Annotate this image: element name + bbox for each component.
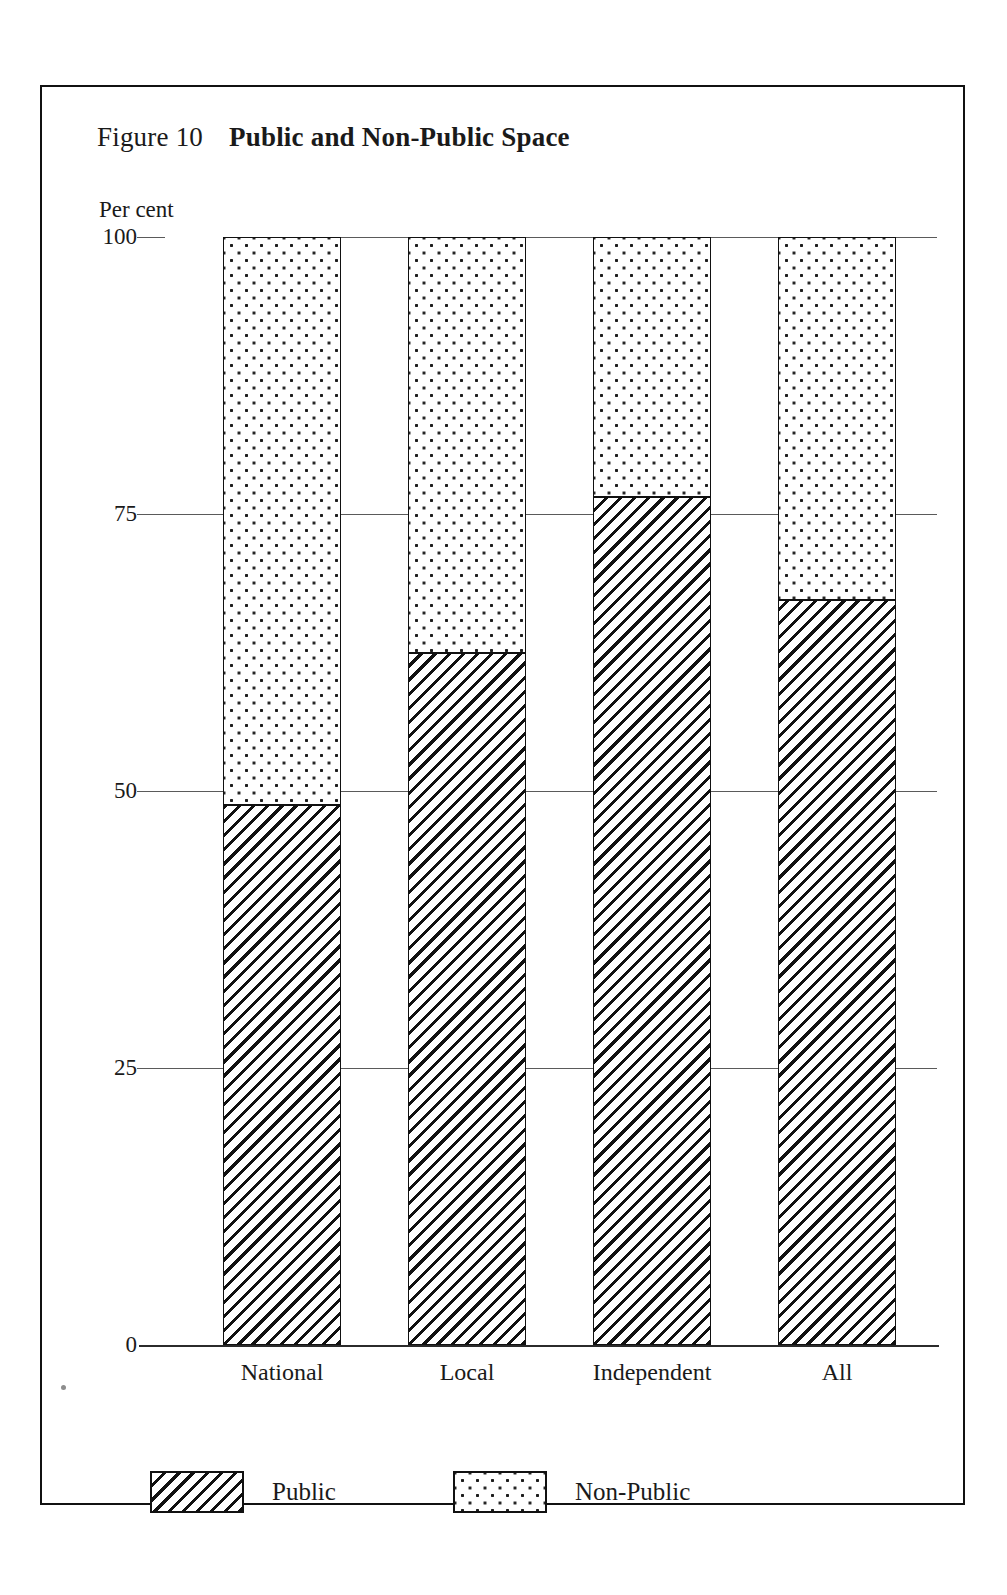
y-axis-tick-label-25: 25: [77, 1055, 137, 1081]
y-axis-tick-label-100: 100: [77, 224, 137, 250]
legend-swatch-public-icon: [150, 1471, 244, 1513]
x-axis-baseline: [139, 1345, 939, 1347]
bar-group-all: [778, 237, 896, 1345]
gridline-100-tick: [137, 237, 165, 238]
bar-segment-public-local: [408, 653, 526, 1346]
legend-label-public: Public: [272, 1478, 336, 1506]
legend-item-public[interactable]: Public: [150, 1471, 336, 1513]
chart-plot-area: 0255075100 NationalLocalIndependentAll: [42, 87, 963, 1503]
legend-swatch-non-public-icon: [453, 1471, 547, 1513]
bar-segment-non-public-independent: [593, 237, 711, 497]
bar-segment-public-all: [778, 600, 896, 1345]
bar-segment-non-public-all: [778, 237, 896, 600]
bar-segment-non-public-national: [223, 237, 341, 805]
bar-segment-non-public-local: [408, 237, 526, 653]
legend-label-non-public: Non-Public: [575, 1478, 690, 1506]
gridline-100-segment-3: [896, 237, 937, 238]
bar-group-local: [408, 237, 526, 1345]
bar-group-national: [223, 237, 341, 1345]
y-axis-tick-label-50: 50: [77, 778, 137, 804]
scan-artifact-speck: [61, 1385, 66, 1390]
y-axis-tick-label-75: 75: [77, 501, 137, 527]
y-axis-tick-label-0: 0: [77, 1332, 137, 1358]
bar-segment-public-independent: [593, 497, 711, 1345]
legend-item-non-public[interactable]: Non-Public: [453, 1471, 690, 1513]
gridline-100-segment-0: [341, 237, 409, 238]
chart-legend: PublicNon-Public: [42, 1417, 963, 1487]
gridline-100-segment-2: [711, 237, 779, 238]
bar-segment-public-national: [223, 805, 341, 1345]
bar-group-independent: [593, 237, 711, 1345]
x-axis-category-label-all: All: [718, 1359, 956, 1386]
gridline-100-segment-1: [526, 237, 594, 238]
figure-frame: Figure 10Public and Non-Public Space Per…: [40, 85, 965, 1505]
